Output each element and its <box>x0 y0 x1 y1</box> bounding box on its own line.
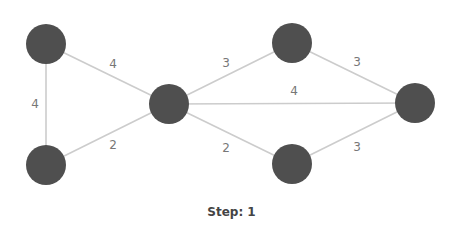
graph-node-C[interactable] <box>149 84 189 124</box>
edge-weight-label: 4 <box>290 84 298 98</box>
edge-weight-label: 3 <box>353 140 361 154</box>
step-counter: Step: 1 <box>0 205 463 219</box>
edge-B-C <box>46 104 169 165</box>
edge-C-E <box>169 104 292 164</box>
graph-node-A[interactable] <box>26 24 66 64</box>
edge-weight-label: 2 <box>222 141 230 155</box>
edge-E-F <box>292 103 415 164</box>
graph-canvas: 44234233 <box>0 0 463 238</box>
edge-C-F <box>169 103 415 104</box>
edge-weight-label: 3 <box>353 55 361 69</box>
edge-D-F <box>292 43 415 103</box>
edge-weight-label: 4 <box>109 57 117 71</box>
edge-weight-label: 2 <box>109 138 117 152</box>
edge-weight-label: 4 <box>31 97 39 111</box>
edge-weight-label: 3 <box>222 56 230 70</box>
graph-node-E[interactable] <box>272 144 312 184</box>
edge-C-D <box>169 43 292 104</box>
graph-node-B[interactable] <box>26 145 66 185</box>
graph-node-F[interactable] <box>395 83 435 123</box>
graph-node-D[interactable] <box>272 23 312 63</box>
edge-labels-layer: 44234233 <box>31 55 361 155</box>
edge-A-C <box>46 44 169 104</box>
